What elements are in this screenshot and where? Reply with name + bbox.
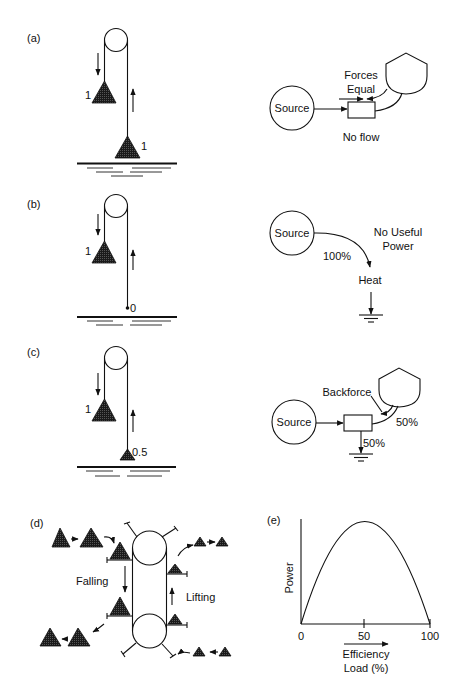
weight-icon [168, 614, 182, 624]
weight-left-value: 1 [85, 89, 91, 101]
bottom-wheel-icon [133, 614, 167, 648]
panel-d: (d) Falli [30, 517, 231, 658]
transducer-box [348, 102, 375, 118]
weight-icon [216, 537, 228, 546]
x-label-efficiency: Efficiency [343, 648, 390, 660]
falling-label: Falling [76, 575, 108, 587]
forces-label: Forces [344, 69, 378, 81]
arrow-icon [104, 537, 114, 543]
weight-icon [40, 628, 61, 646]
y-label-power: Power [283, 562, 295, 594]
panel-a-label: (a) [27, 32, 40, 44]
weight-icon [219, 647, 231, 656]
power-label: Power [382, 240, 414, 252]
weight-icon [110, 597, 130, 615]
electrical-ground-icon [359, 315, 383, 322]
percent-label: 100% [323, 250, 351, 262]
arrow-icon [93, 624, 104, 632]
weight-right-value: 0 [130, 302, 136, 314]
weight-icon [193, 647, 205, 656]
weight-icon [68, 628, 90, 646]
panel-b-label: (b) [27, 198, 40, 210]
top-wheel-icon [133, 531, 167, 565]
source-label: Source [275, 102, 310, 114]
ground-icon [77, 317, 177, 325]
tick-label-100: 100 [421, 630, 439, 642]
source-label: Source [277, 416, 312, 428]
lifting-label: Lifting [186, 591, 215, 603]
weight-icon [168, 564, 182, 573]
power-transfer-diagram: (a) 1 1 Source Forces [0, 0, 465, 692]
weight-icon [52, 528, 70, 547]
panel-e-chart: (e) 0 50 100 Efficiency Load (%) Power [267, 514, 439, 674]
equal-label: Equal [347, 83, 375, 95]
weight-left-icon [92, 81, 116, 103]
ground-icon [77, 164, 177, 177]
weight-left-value: 1 [85, 245, 91, 257]
pulley-icon [105, 347, 128, 370]
pulley-icon [105, 195, 128, 218]
rope-end-dot-icon [126, 306, 130, 310]
ground-icon [77, 467, 176, 476]
no-useful-label: No Useful [374, 226, 422, 238]
weight-left-icon [92, 399, 116, 421]
pulley-icon [105, 29, 128, 52]
tick-label-0: 0 [298, 630, 304, 642]
weight-right-value: 0.5 [132, 446, 147, 458]
panel-b: (b) 1 0 Source 100% Heat No Useful Power [27, 195, 422, 326]
weight-left-icon [92, 241, 116, 263]
backforce-label: Backforce [323, 386, 372, 398]
weight-right-icon [115, 136, 140, 158]
heat-percent-label: 50% [363, 437, 385, 449]
arrow-icon [178, 545, 193, 556]
electrical-ground-icon [349, 454, 373, 461]
tick-label-50: 50 [358, 630, 370, 642]
load-shield-icon [379, 368, 420, 407]
panel-c-label: (c) [27, 346, 40, 358]
weight-icon [80, 528, 103, 547]
arrow-icon [178, 652, 190, 654]
load-connection-line [372, 406, 398, 424]
power-curve [301, 522, 430, 625]
panel-a: (a) 1 1 Source Forces [27, 29, 427, 177]
load-shield-icon [386, 53, 427, 94]
x-label-load: Load (%) [344, 662, 389, 674]
load-percent-label: 50% [396, 416, 418, 428]
panel-d-label: (d) [30, 517, 43, 529]
panel-c: (c) 1 0.5 Source Backforce 50% 50% [27, 346, 420, 476]
weight-icon [110, 542, 130, 559]
transducer-box [344, 415, 372, 431]
weight-right-value: 1 [141, 140, 147, 152]
weight-icon [194, 537, 206, 546]
panel-e-label: (e) [267, 514, 280, 526]
source-label: Source [275, 227, 310, 239]
no-flow-label: No flow [343, 131, 380, 143]
heat-label: Heat [358, 274, 381, 286]
weight-left-value: 1 [85, 403, 91, 415]
